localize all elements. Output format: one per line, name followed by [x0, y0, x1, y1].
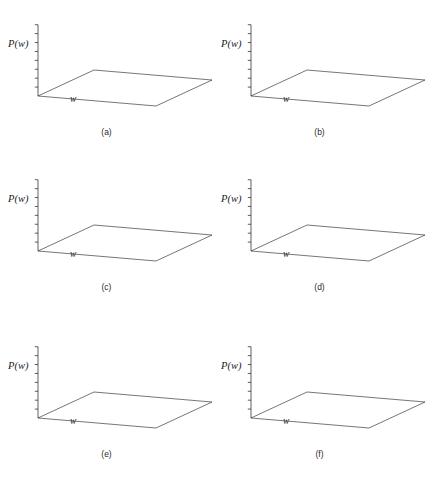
waterfall-svg-f [213, 322, 426, 450]
panel-a: P(w) w (a) [0, 0, 213, 150]
plot-area-a [0, 0, 213, 128]
waterfall-svg-d [213, 155, 426, 283]
figure-six-waterfall-plots: P(w) w (a) P(w) w (b) P(w) w (c) P(w) w … [0, 0, 426, 490]
panel-label-d: (d) [213, 282, 426, 292]
panel-label-f: (f) [213, 449, 426, 459]
x-axis-label-f: w [283, 416, 289, 426]
y-axis-label-e: P(w) [8, 360, 28, 371]
x-axis-label-a: w [70, 94, 76, 104]
x-axis-label-b: w [283, 94, 289, 104]
waterfall-svg-a [0, 0, 213, 128]
panel-e: P(w) w (e) [0, 322, 213, 472]
plot-area-b [213, 0, 426, 128]
panel-label-a: (a) [0, 127, 213, 137]
plot-area-d [213, 155, 426, 283]
x-axis-label-c: w [70, 249, 76, 259]
panel-c: P(w) w (c) [0, 155, 213, 305]
panel-f: P(w) w (f) [213, 322, 426, 472]
y-axis-label-a: P(w) [8, 38, 28, 49]
panel-b: P(w) w (b) [213, 0, 426, 150]
panel-label-c: (c) [0, 282, 213, 292]
waterfall-svg-c [0, 155, 213, 283]
y-axis-label-d: P(w) [221, 193, 241, 204]
x-axis-label-e: w [70, 416, 76, 426]
panel-label-e: (e) [0, 449, 213, 459]
panel-d: P(w) w (d) [213, 155, 426, 305]
plot-area-e [0, 322, 213, 450]
y-axis-label-c: P(w) [8, 193, 28, 204]
y-axis-label-f: P(w) [221, 360, 241, 371]
y-axis-label-b: P(w) [221, 38, 241, 49]
panel-label-b: (b) [213, 127, 426, 137]
waterfall-svg-b [213, 0, 426, 128]
x-axis-label-d: w [283, 249, 289, 259]
plot-area-c [0, 155, 213, 283]
waterfall-svg-e [0, 322, 213, 450]
plot-area-f [213, 322, 426, 450]
